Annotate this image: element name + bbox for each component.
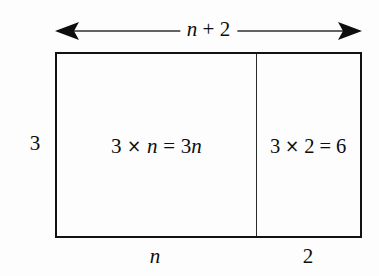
cell-left: 3 × n = 3n	[57, 54, 257, 236]
height-label: 3	[24, 131, 46, 156]
top-dimension-variable: n	[187, 17, 198, 41]
bottom-label-right: 2	[286, 244, 330, 269]
cell-left-equals: =	[163, 134, 175, 158]
top-dimension-rest: + 2	[197, 17, 230, 41]
area-model-figure: n + 2 3 3 × n = 3n 3 × 2 = 6 n 2	[0, 0, 379, 276]
cell-left-factor-b: n	[147, 134, 158, 158]
cell-right: 3 × 2 = 6	[257, 54, 359, 236]
cell-left-expression: 3 × n = 3n	[111, 134, 202, 159]
cell-left-factor-a: 3	[111, 134, 122, 158]
top-dimension-label: n + 2	[180, 16, 237, 42]
cell-right-factor-b: 2	[304, 135, 314, 157]
bottom-label-left: n	[130, 244, 180, 269]
cell-right-factor-a: 3	[270, 135, 280, 157]
multiplication-sign-icon: ×	[127, 136, 141, 156]
top-dimension-arrow: n + 2	[55, 18, 362, 44]
cell-right-expression: 3 × 2 = 6	[270, 135, 346, 158]
rectangle-outline: 3 × n = 3n 3 × 2 = 6	[55, 52, 362, 238]
cell-right-equals: =	[319, 135, 330, 157]
multiplication-sign-icon: ×	[285, 136, 299, 156]
cell-left-product: 3n	[181, 134, 202, 158]
cell-right-product: 6	[336, 135, 346, 157]
